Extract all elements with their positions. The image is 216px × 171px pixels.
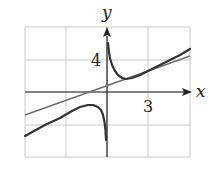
y-tick-label-4: 4 xyxy=(91,51,101,70)
function-graph: y x 4 3 xyxy=(0,0,216,171)
x-axis-label: x xyxy=(196,81,206,101)
x-tick-label-3: 3 xyxy=(143,97,153,116)
y-axis-label: y xyxy=(101,2,112,22)
